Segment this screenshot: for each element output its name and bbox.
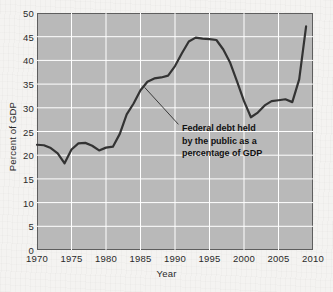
x-tick-label: 1990 [164, 253, 186, 264]
y-tick-label: 40 [4, 55, 34, 66]
annotation-line-2: by the public as a [182, 135, 307, 148]
x-tick-label: 1970 [26, 253, 48, 264]
y-tick-label: 10 [4, 197, 34, 208]
x-tick-label: 1980 [95, 253, 117, 264]
x-tick-label: 1975 [61, 253, 83, 264]
x-tick-label: 2000 [233, 253, 255, 264]
chart-annotation: Federal debt held by the public as a per… [182, 122, 307, 160]
x-axis-title: Year [0, 268, 333, 279]
y-axis-title: Percent of GDP [7, 82, 18, 192]
line-chart-figure: 05101520253035404550 1970197519801985199… [0, 0, 333, 292]
annotation-line-1: Federal debt held [182, 122, 307, 135]
y-tick-label: 5 [4, 221, 34, 232]
x-tick-label: 2005 [268, 253, 290, 264]
chart-page: 05101520253035404550 1970197519801985199… [0, 0, 333, 292]
x-tick-label: 2010 [302, 253, 324, 264]
annotation-line-3: percentage of GDP [182, 147, 307, 160]
x-tick-label: 1995 [199, 253, 221, 264]
x-tick-label: 1985 [130, 253, 152, 264]
y-tick-label: 45 [4, 31, 34, 42]
y-tick-label: 50 [4, 8, 34, 19]
